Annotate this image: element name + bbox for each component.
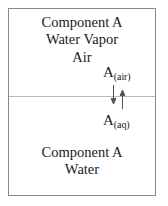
- diagram-canvas: Component A Water Vapor Air A(air) A(aq)…: [0, 0, 168, 206]
- vapor-phase-line-1: Component A: [8, 14, 156, 31]
- species-label-air: A(air): [103, 65, 131, 84]
- species-air-subscript: (air): [114, 71, 131, 82]
- species-label-aqueous: A(aq): [103, 113, 130, 132]
- species-air-base: A: [103, 64, 114, 80]
- air-water-interface-line: [9, 96, 155, 97]
- species-aq-base: A: [103, 112, 114, 128]
- transfer-arrows-svg: [108, 84, 130, 110]
- vapor-phase-line-3: Air: [8, 49, 156, 66]
- vapor-phase-line-2: Water Vapor: [8, 31, 156, 48]
- phase-transfer-arrows: [108, 84, 130, 110]
- liquid-phase-line-1: Component A: [8, 144, 156, 161]
- absorption-arrow-down-icon: [111, 85, 116, 104]
- volatilization-arrow-up-icon: [120, 90, 125, 109]
- species-aq-subscript: (aq): [114, 119, 130, 130]
- liquid-phase-line-2: Water: [8, 161, 156, 178]
